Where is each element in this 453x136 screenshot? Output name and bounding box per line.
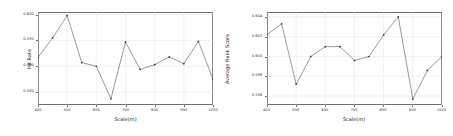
- x-tick-label: 400: [34, 109, 41, 113]
- figure-two-line-charts: 0.5850.5900.5950.60040050060070080090010…: [0, 0, 453, 136]
- x-tick-mark: [96, 105, 97, 107]
- y-axis-label: Hit Rate: [26, 48, 32, 68]
- line-series-hit-rate: [38, 12, 213, 105]
- x-axis-label: Scale(m): [114, 116, 136, 122]
- x-tick-label: 800: [380, 109, 387, 113]
- y-tick-label: 0.595: [23, 39, 34, 43]
- x-tick-label: 800: [151, 109, 158, 113]
- y-tick-label: 0.604: [252, 15, 263, 19]
- x-tick-label: 1000: [208, 109, 218, 113]
- x-tick-mark: [213, 105, 214, 107]
- x-axis-label: Scale(m): [343, 116, 365, 122]
- x-tick-label: 900: [409, 109, 416, 113]
- x-tick-label: 700: [122, 109, 129, 113]
- x-tick-mark: [155, 105, 156, 107]
- y-tick-label: 0.598: [252, 75, 263, 79]
- y-tick-mark: [36, 66, 38, 67]
- x-tick-label: 600: [93, 109, 100, 113]
- y-tick-mark: [36, 15, 38, 16]
- x-tick-label: 500: [292, 109, 299, 113]
- y-tick-mark: [265, 76, 267, 77]
- y-tick-mark: [265, 57, 267, 58]
- y-axis-label: Average Rank Score: [224, 33, 230, 83]
- line-series-average-rank-score: [267, 12, 442, 105]
- x-tick-label: 500: [64, 109, 71, 113]
- x-tick-mark: [325, 105, 326, 107]
- x-tick-mark: [296, 105, 297, 107]
- chart-panel-average-rank-score: 0.5960.5980.6000.6020.604400500600700800…: [227, 0, 453, 136]
- plot-area-average-rank-score: 0.5960.5980.6000.6020.604400500600700800…: [267, 12, 442, 105]
- y-tick-label: 0.602: [252, 35, 263, 39]
- x-tick-mark: [383, 105, 384, 107]
- x-tick-mark: [67, 105, 68, 107]
- x-tick-mark: [442, 105, 443, 107]
- y-tick-label: 0.585: [23, 90, 34, 94]
- y-tick-mark: [265, 96, 267, 97]
- x-tick-label: 700: [350, 109, 357, 113]
- y-tick-label: 0.596: [252, 94, 263, 98]
- x-tick-mark: [267, 105, 268, 107]
- x-tick-mark: [354, 105, 355, 107]
- y-tick-mark: [36, 40, 38, 41]
- y-tick-label: 0.600: [252, 55, 263, 59]
- plot-area-hit-rate: 0.5850.5900.5950.60040050060070080090010…: [38, 12, 213, 105]
- y-tick-label: 0.600: [23, 13, 34, 17]
- y-tick-mark: [36, 92, 38, 93]
- x-tick-label: 1000: [437, 109, 447, 113]
- x-tick-mark: [184, 105, 185, 107]
- x-tick-mark: [412, 105, 413, 107]
- y-tick-mark: [265, 17, 267, 18]
- y-tick-mark: [265, 37, 267, 38]
- x-tick-label: 600: [321, 109, 328, 113]
- x-tick-mark: [126, 105, 127, 107]
- x-tick-label: 400: [263, 109, 270, 113]
- x-tick-label: 900: [180, 109, 187, 113]
- x-tick-mark: [38, 105, 39, 107]
- chart-panel-hit-rate: 0.5850.5900.5950.60040050060070080090010…: [0, 0, 227, 136]
